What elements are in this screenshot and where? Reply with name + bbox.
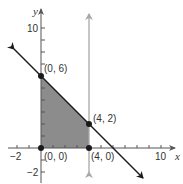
y-axis-label: y [32,5,38,17]
y-tick-label-10: 10 [27,23,39,34]
point-label-0-6: (0, 6) [44,63,67,74]
vertex-point-4-2 [86,121,92,127]
feasible-region-chart: −2 10 10 −2 x y (0, 6) (4, 2) (0, 0) (4,… [0,0,183,184]
y-tick-label-neg2: −2 [27,167,39,178]
feasible-region [41,76,89,148]
x-axis-label: x [174,150,180,162]
x-tick-label-10: 10 [155,151,167,162]
constraint-line-x-plus-y-equals-6 [14,49,143,178]
x-tick-label-neg2: −2 [10,151,22,162]
point-label-0-0: (0, 0) [44,151,67,162]
point-label-4-0: (4, 0) [91,151,114,162]
point-label-4-2: (4, 2) [93,113,116,124]
